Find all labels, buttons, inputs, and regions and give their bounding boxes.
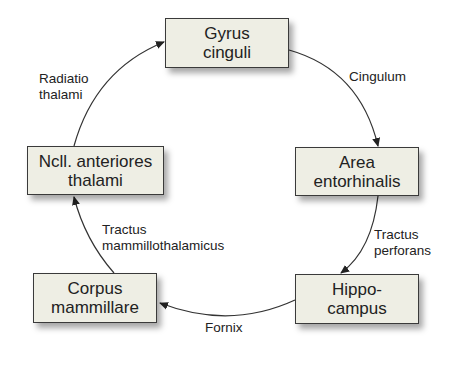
node-label: thalami (68, 171, 123, 190)
node-corpus-mammillare: Corpus mammillare (33, 273, 157, 323)
edge-label-text: Cingulum (349, 69, 406, 85)
node-label: entorhinalis (314, 172, 401, 191)
node-label: Ncll. anteriores (39, 152, 152, 171)
node-hippocampus: Hippo- campus (295, 274, 419, 324)
node-ncll-anteriores-thalami: Ncll. anteriores thalami (27, 146, 164, 195)
edge-label-tractus-perforans: Tractus perforans (374, 227, 431, 259)
edge-label-text: Tractus (102, 222, 224, 238)
edge-label-cingulum: Cingulum (349, 69, 406, 85)
edge-label-radiatio-thalami: Radiatio thalami (39, 71, 89, 103)
edge-label-text: Radiatio (39, 71, 89, 87)
node-label: mammillare (51, 298, 139, 317)
node-label: cinguli (203, 43, 251, 62)
node-gyrus-cinguli: Gyrus cinguli (165, 18, 289, 68)
edge-label-text: perforans (374, 243, 431, 259)
node-area-entorhinalis: Area entorhinalis (295, 147, 419, 196)
edge-label-fornix: Fornix (205, 320, 243, 336)
node-label: Gyrus (204, 24, 249, 43)
edge-label-tractus-mammillothalamicus: Tractus mammillothalamicus (102, 222, 224, 254)
node-label: campus (327, 299, 387, 318)
node-label: Hippo- (332, 280, 382, 299)
edge-label-text: Fornix (205, 320, 243, 336)
edge-label-text: Tractus (374, 227, 431, 243)
edge-label-text: mammillothalamicus (102, 238, 224, 254)
node-label: Area (339, 153, 375, 172)
edge-label-text: thalami (39, 87, 89, 103)
node-label: Corpus (68, 279, 123, 298)
